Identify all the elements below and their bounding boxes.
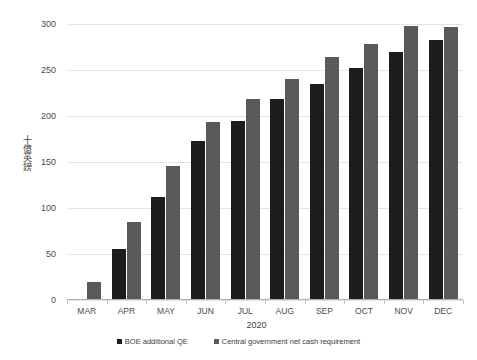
- bar: [127, 222, 141, 300]
- y-axis-tick-label: 100: [26, 203, 56, 213]
- bar: [151, 197, 165, 300]
- x-axis-tick-label: DEC: [413, 306, 473, 316]
- x-axis-tick: [225, 300, 226, 304]
- bar: [364, 44, 378, 300]
- x-axis-tick: [186, 300, 187, 304]
- bar-group: [305, 24, 345, 300]
- y-axis-tick-label: 200: [26, 111, 56, 121]
- x-axis-tick: [423, 300, 424, 304]
- bar-group: [107, 24, 147, 300]
- x-axis-tick: [344, 300, 345, 304]
- bar: [166, 166, 180, 300]
- bar: [270, 99, 284, 300]
- x-axis-tick: [384, 300, 385, 304]
- x-axis-tick: [305, 300, 306, 304]
- bar: [444, 27, 458, 300]
- x-axis-tick: [107, 300, 108, 304]
- plot-area: [67, 24, 463, 300]
- legend-item[interactable]: Central government net cash requirement: [214, 337, 360, 346]
- bar: [206, 122, 220, 300]
- bar-group: [423, 24, 463, 300]
- x-axis-tick: [265, 300, 266, 304]
- bar: [231, 121, 245, 300]
- legend-item[interactable]: BOE additional QE: [117, 337, 188, 346]
- bar: [404, 26, 418, 300]
- bar-group: [344, 24, 384, 300]
- bar: [310, 84, 324, 300]
- y-axis-tick-label: 0: [26, 295, 56, 305]
- bar: [87, 282, 101, 300]
- bar-group: [146, 24, 186, 300]
- bar-group: [384, 24, 424, 300]
- y-axis-tick-label: 300: [26, 19, 56, 29]
- x-axis-title: 2020: [0, 320, 477, 330]
- y-axis-tick-label: 50: [26, 249, 56, 259]
- legend-swatch-icon: [117, 339, 122, 344]
- bar-group: [225, 24, 265, 300]
- x-axis-line: [67, 299, 463, 300]
- legend-label: Central government net cash requirement: [222, 337, 360, 346]
- y-axis-tick-label: 150: [26, 157, 56, 167]
- chart-legend: BOE additional QECentral government net …: [0, 337, 477, 346]
- bar: [246, 99, 260, 300]
- x-axis-tick: [67, 300, 68, 304]
- bar: [349, 68, 363, 300]
- bar: [325, 57, 339, 300]
- bar-chart: 十億英鎊 050100150200250300 MARAPRMAYJUNJULA…: [0, 0, 477, 360]
- bar: [191, 141, 205, 300]
- legend-label: BOE additional QE: [125, 337, 188, 346]
- bar-group: [265, 24, 305, 300]
- bar-group: [67, 24, 107, 300]
- bar: [285, 79, 299, 300]
- bar: [429, 40, 443, 300]
- x-axis-tick: [463, 300, 464, 304]
- bar: [389, 52, 403, 300]
- y-axis-tick-label: 250: [26, 65, 56, 75]
- bar-group: [186, 24, 226, 300]
- x-axis-tick: [146, 300, 147, 304]
- legend-swatch-icon: [214, 339, 219, 344]
- bar: [112, 249, 126, 300]
